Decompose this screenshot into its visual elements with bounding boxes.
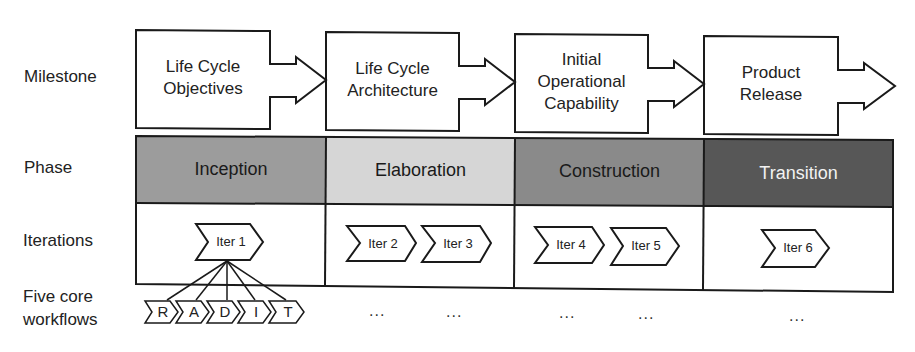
milestone-line: Initial [515,49,648,71]
milestone-line: Objectives [136,78,270,100]
iter-5-label: Iter 5 [621,238,671,254]
ellipsis-iter-5: ... [638,305,654,323]
milestone-line: Operational [515,71,648,93]
iter-3-label: Iter 3 [433,236,483,252]
workflow-T-label: T [278,303,298,321]
ellipsis-iter-4: ... [559,304,575,322]
iter-2-label: Iter 2 [358,236,408,252]
workflow-A-label: A [184,303,204,321]
milestone-line: Life Cycle [326,58,459,80]
ellipsis-iter-6: ... [789,307,805,325]
milestone-2: Life Cycle Architecture [326,58,459,102]
milestone-line: Release [704,84,838,106]
diagram-lineart [0,0,915,352]
milestone-1: Life Cycle Objectives [136,56,270,100]
milestone-4: Product Release [704,62,838,106]
milestone-3: Initial Operational Capability [515,49,648,115]
milestone-line: Architecture [326,80,459,102]
workflow-I-label: I [246,303,266,321]
milestone-line: Product [704,62,838,84]
workflow-D-label: D [215,303,235,321]
milestone-line: Capability [515,93,648,115]
workflow-fan-lines [167,261,286,300]
ellipsis-iter-2: ... [369,302,385,320]
milestone-line: Life Cycle [136,56,270,78]
workflow-R-label: R [153,303,173,321]
iter-1-label: Iter 1 [206,234,256,250]
ellipsis-iter-3: ... [446,303,462,321]
iter-4-label: Iter 4 [546,237,596,253]
iter-6-label: Iter 6 [773,240,823,256]
